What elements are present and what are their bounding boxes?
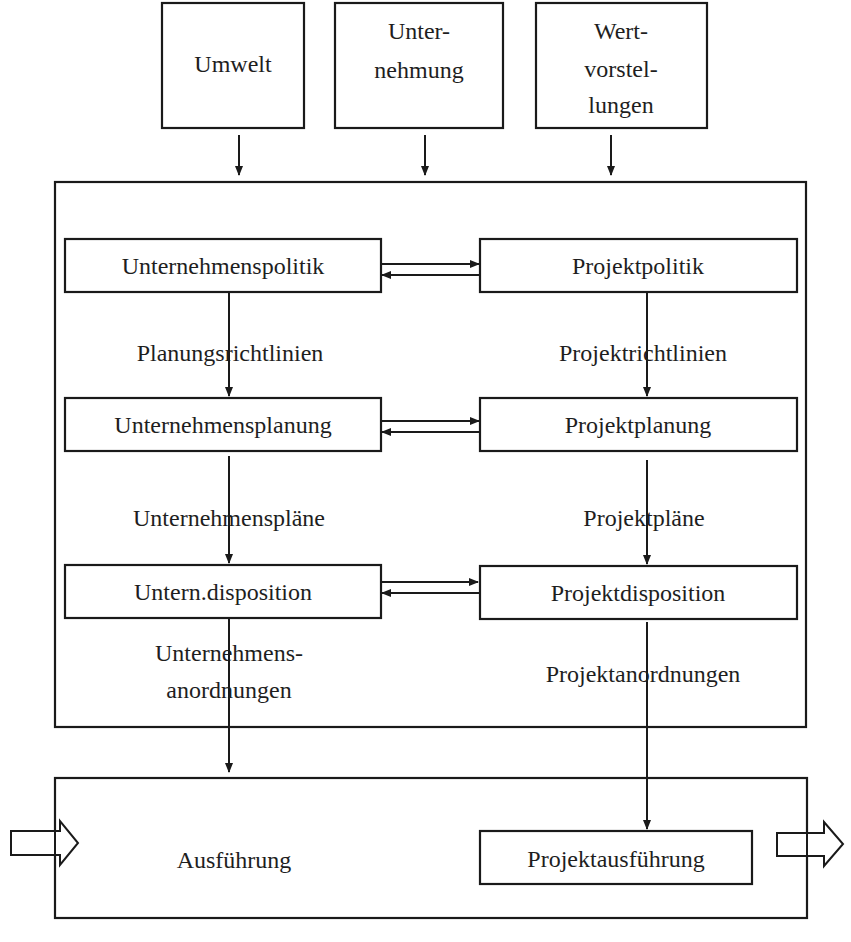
wertvorstellungen-label-line1: Wert- xyxy=(594,18,648,44)
projektanordnungen-label: Projektanordnungen xyxy=(546,661,741,687)
unternehmenspolitik-node: Unternehmenspolitik xyxy=(65,239,381,292)
unternehmung-label-line1: Unter- xyxy=(388,18,450,44)
unternehmensanordnungen-label-line2: anordnungen xyxy=(166,677,291,703)
projektplanung-label: Projektplanung xyxy=(565,412,712,438)
input-wertvorstellungen: Wert- vorstel- lungen xyxy=(536,3,707,128)
projektpolitik-node: Projektpolitik xyxy=(480,239,797,292)
umwelt-label: Umwelt xyxy=(194,51,272,77)
untern-disposition-label: Untern.disposition xyxy=(134,579,312,605)
projektplaene-label: Projektpläne xyxy=(583,505,704,531)
untern-disposition-node: Untern.disposition xyxy=(65,565,381,618)
projektrichtlinien-label: Projektrichtlinien xyxy=(559,340,727,366)
unternehmensanordnungen-label-line1: Unternehmens- xyxy=(155,640,303,666)
project-management-diagram: Umwelt Unter- nehmung Wert- vorstel- lun… xyxy=(0,0,851,942)
planungsrichtlinien-label: Planungsrichtlinien xyxy=(137,340,324,366)
input-unternehmung: Unter- nehmung xyxy=(335,3,503,128)
projektdisposition-label: Projektdisposition xyxy=(551,580,726,606)
unternehmung-label-line2: nehmung xyxy=(374,57,463,83)
unternehmensplanung-label: Unternehmensplanung xyxy=(114,412,331,438)
projektpolitik-label: Projektpolitik xyxy=(572,253,704,279)
unternehmensplaene-label: Unternehmenspläne xyxy=(133,505,325,531)
projektausfuehrung-node: Projektausführung xyxy=(480,831,752,884)
unternehmenspolitik-label: Unternehmenspolitik xyxy=(122,253,325,279)
projektausfuehrung-label: Projektausführung xyxy=(527,846,704,872)
input-umwelt: Umwelt xyxy=(162,3,304,128)
projektdisposition-node: Projektdisposition xyxy=(480,566,797,619)
unternehmensplanung-node: Unternehmensplanung xyxy=(65,398,381,451)
projektplanung-node: Projektplanung xyxy=(480,398,797,451)
ausfuehrung-label: Ausführung xyxy=(177,847,292,873)
wertvorstellungen-label-line3: lungen xyxy=(588,92,653,118)
wertvorstellungen-label-line2: vorstel- xyxy=(584,56,657,82)
